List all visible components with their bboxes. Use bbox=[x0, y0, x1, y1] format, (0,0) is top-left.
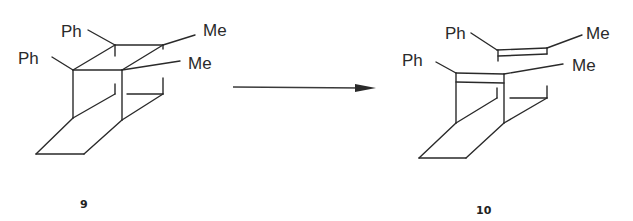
bond-ph2 bbox=[52, 57, 73, 70]
me-label-1: Me bbox=[203, 21, 227, 40]
me-label-1: Me bbox=[586, 24, 610, 43]
compound-number-10: 10 bbox=[476, 204, 492, 217]
arrow-shaft bbox=[233, 87, 362, 88]
me-label-2: Me bbox=[188, 54, 212, 73]
ph-label-2: Ph bbox=[18, 49, 39, 68]
reactant-structure-9: Ph Ph Me Me 9 bbox=[18, 21, 227, 211]
ph-label-2: Ph bbox=[402, 51, 423, 70]
product-structure-10: Ph Me Ph Me 10 bbox=[402, 24, 610, 217]
reaction-scheme: Ph Ph Me Me 9 bbox=[0, 0, 633, 221]
ring-double-bond-bottom bbox=[456, 82, 504, 83]
ph-label-1: Ph bbox=[445, 24, 466, 43]
me-label-2: Me bbox=[572, 56, 596, 75]
ring-double-bond-top bbox=[456, 73, 504, 74]
reaction-arrow bbox=[233, 84, 376, 92]
bond-me1 bbox=[163, 35, 195, 45]
compound-number-9: 9 bbox=[80, 198, 88, 211]
arrowhead-icon bbox=[355, 84, 376, 92]
ph-label-1: Ph bbox=[61, 22, 82, 41]
alkene-bond-bottom bbox=[498, 54, 547, 56]
bond-ph1 bbox=[88, 30, 115, 45]
alkene-bond-top bbox=[497, 48, 547, 50]
